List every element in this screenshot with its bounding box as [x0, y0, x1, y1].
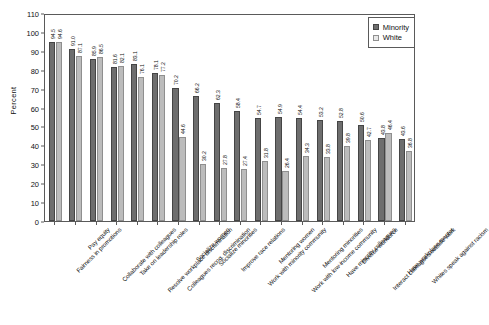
bar-group: 94.594.6	[45, 15, 66, 221]
bar-value-label: 31.8	[263, 148, 269, 158]
y-tick-label: 90	[13, 47, 39, 56]
bar-minority: 78.1	[152, 73, 158, 221]
bar-value-label: 43.6	[400, 126, 406, 136]
bar-value-label: 50.6	[359, 113, 365, 123]
bar-value-label: 39.8	[345, 133, 351, 143]
bar-minority: 70.2	[172, 88, 178, 221]
bar-white: 46.4	[385, 133, 391, 221]
bar-value-label: 70.2	[173, 76, 179, 86]
bar-white: 76.1	[138, 77, 144, 221]
bar-value-label: 46.4	[387, 121, 393, 131]
bar-group: 58.427.4	[231, 15, 252, 221]
x-tick-mark	[219, 222, 220, 225]
bar-white: 26.4	[282, 171, 288, 221]
bar-group: 53.233.8	[313, 15, 334, 221]
x-category-label: Whites speak against racism	[430, 226, 489, 285]
x-tick-mark	[96, 222, 97, 225]
bar-value-label: 94.6	[57, 29, 63, 39]
bar-group: 66.230.2	[189, 15, 210, 221]
y-tick-label: 50	[13, 123, 39, 132]
bar-minority: 85.9	[90, 59, 96, 221]
bar-group: 54.926.4	[272, 15, 293, 221]
bar-group: 78.177.2	[148, 15, 169, 221]
bar-value-label: 66.2	[194, 83, 200, 93]
x-tick-mark	[116, 222, 117, 225]
bar-group: 54.434.3	[292, 15, 313, 221]
y-tick-label: 60	[13, 104, 39, 113]
bar-value-label: 87.1	[77, 44, 83, 54]
bar-white: 27.8	[221, 168, 227, 221]
bar-group: 83.176.1	[127, 15, 148, 221]
bar-group: 85.986.5	[86, 15, 107, 221]
x-tick-mark	[199, 222, 200, 225]
bar-value-label: 94.5	[50, 30, 56, 40]
bar-white: 33.8	[324, 157, 330, 221]
legend-swatch-white	[373, 35, 379, 41]
legend-item-minority: Minority	[373, 23, 409, 32]
x-tick-mark	[157, 222, 158, 225]
bar-white: 44.6	[179, 137, 185, 221]
legend-label: White	[383, 33, 402, 42]
bar-minority: 54.4	[296, 118, 302, 221]
bar-value-label: 33.8	[325, 144, 331, 154]
y-tick-label: 30	[13, 161, 39, 170]
y-tick-label: 100	[13, 28, 39, 37]
bar-white: 77.2	[159, 75, 165, 221]
bar-white: 31.8	[262, 161, 268, 221]
plot-area: 94.594.691.087.185.986.581.682.183.176.1…	[44, 14, 415, 222]
x-tick-mark	[405, 222, 406, 225]
bar-minority: 62.3	[214, 103, 220, 221]
bar-group: 91.087.1	[66, 15, 87, 221]
bar-minority: 52.8	[337, 121, 343, 221]
bar-value-label: 58.4	[235, 98, 241, 108]
bar-minority: 43.8	[378, 138, 384, 221]
bar-value-label: 44.6	[180, 124, 186, 134]
bar-white: 39.8	[344, 146, 350, 221]
bar-white: 34.3	[303, 156, 309, 221]
bar-minority: 43.6	[399, 139, 405, 221]
y-tick-label: 10	[13, 199, 39, 208]
bar-value-label: 82.1	[119, 53, 125, 63]
x-tick-mark	[54, 222, 55, 225]
bar-white: 42.7	[365, 140, 371, 221]
x-tick-mark	[137, 222, 138, 225]
bar-value-label: 26.4	[284, 158, 290, 168]
bar-group: 70.244.6	[169, 15, 190, 221]
legend-swatch-minority	[373, 24, 379, 30]
bar-value-label: 81.6	[112, 54, 118, 64]
x-tick-mark	[240, 222, 241, 225]
bar-minority: 58.4	[234, 111, 240, 221]
bar-value-label: 52.8	[338, 108, 344, 118]
bar-minority: 94.5	[49, 42, 55, 221]
bar-group: 62.327.8	[210, 15, 231, 221]
y-tick-label: 40	[13, 142, 39, 151]
x-tick-mark	[384, 222, 385, 225]
bar-value-label: 86.5	[98, 45, 104, 55]
x-tick-mark	[260, 222, 261, 225]
bar-group: 81.682.1	[107, 15, 128, 221]
bar-value-label: 78.1	[153, 61, 159, 71]
legend: MinorityWhite	[368, 17, 415, 48]
bar-value-label: 27.4	[242, 157, 248, 167]
bar-minority: 83.1	[131, 64, 137, 221]
bar-white: 87.1	[76, 56, 82, 221]
bar-value-label: 34.3	[304, 143, 310, 153]
x-tick-mark	[281, 222, 282, 225]
bar-value-label: 42.7	[366, 128, 372, 138]
bar-group: 54.731.8	[251, 15, 272, 221]
y-tick-label: 0	[13, 218, 39, 227]
bar-white: 94.6	[56, 42, 62, 221]
bar-white: 82.1	[118, 66, 124, 221]
bar-value-label: 54.4	[297, 105, 303, 115]
bar-minority: 53.2	[317, 120, 323, 221]
bar-value-label: 30.2	[201, 151, 207, 161]
bar-minority: 54.9	[275, 117, 281, 221]
bar-minority: 50.6	[358, 125, 364, 221]
y-tick-label: 20	[13, 180, 39, 189]
y-tick-label: 70	[13, 85, 39, 94]
bar-value-label: 53.2	[318, 108, 324, 118]
bar-value-label: 91.0	[70, 36, 76, 46]
legend-item-white: White	[373, 33, 409, 42]
bar-white: 27.4	[241, 169, 247, 221]
